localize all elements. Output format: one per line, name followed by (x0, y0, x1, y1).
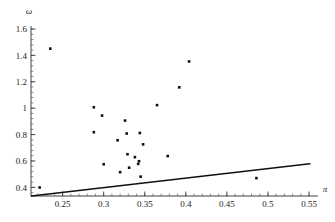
data-point (137, 163, 140, 166)
y-tick-label: 0.6 (16, 156, 28, 166)
data-point (139, 132, 142, 135)
reference-line (31, 164, 309, 196)
data-point-group (38, 47, 257, 188)
y-tick-label: 1 (23, 103, 28, 113)
y-tick-label: 0.4 (16, 183, 28, 193)
data-point (49, 47, 52, 50)
x-axis-label: π (323, 184, 328, 194)
x-tick-label: 0.55 (301, 199, 317, 209)
data-point (93, 131, 96, 134)
data-point (102, 163, 105, 166)
data-point (119, 171, 122, 174)
data-point (93, 106, 96, 109)
data-point (38, 186, 41, 189)
data-point (134, 156, 137, 159)
data-point (101, 114, 104, 117)
y-tick-label: 1.4 (16, 51, 28, 61)
x-tick-label: 0.35 (137, 199, 153, 209)
data-point (139, 175, 142, 178)
data-point (166, 155, 169, 158)
x-tick-label: 0.5 (262, 199, 274, 209)
y-axis-label: ω (26, 6, 32, 16)
data-point (116, 139, 119, 142)
x-tick-label: 0.25 (55, 199, 71, 209)
chart-canvas: 0.250.30.350.40.450.50.550.40.60.811.21.… (0, 0, 335, 222)
x-tick-label: 0.45 (219, 199, 235, 209)
y-tick-label: 0.8 (16, 130, 28, 140)
axis-lines (31, 26, 318, 196)
y-tick-label: 1.6 (16, 24, 28, 34)
data-point (178, 86, 181, 89)
data-point (128, 166, 131, 169)
data-point (124, 119, 127, 122)
y-tick-label: 1.2 (16, 77, 27, 87)
data-point (126, 153, 129, 156)
data-point (125, 132, 128, 135)
scatter-plot-figure: 0.250.30.350.40.450.50.550.40.60.811.21.… (0, 0, 335, 222)
x-tick-label: 0.4 (180, 199, 192, 209)
data-point (188, 60, 191, 63)
data-point (138, 160, 141, 163)
data-point (255, 177, 258, 180)
data-point (156, 104, 159, 107)
data-point (142, 143, 145, 146)
x-tick-label: 0.3 (98, 199, 110, 209)
